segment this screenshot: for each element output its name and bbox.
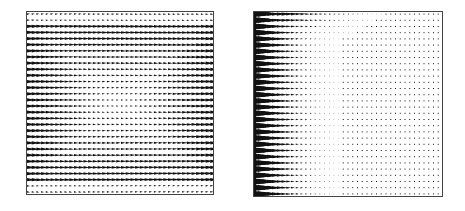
- left-quiver-panel: [26, 11, 214, 195]
- right-vector-field: [253, 11, 443, 197]
- left-vector-field: [26, 11, 214, 195]
- right-quiver-panel: [253, 11, 443, 197]
